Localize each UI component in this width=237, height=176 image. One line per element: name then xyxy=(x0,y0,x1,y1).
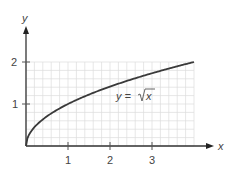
x-tick-label-1: 1 xyxy=(65,154,71,166)
chart-container: 1 2 3 1 2 x y y = x xyxy=(0,0,237,176)
y-tick-label-2: 2 xyxy=(11,56,17,68)
y-tick-label-1: 1 xyxy=(12,98,18,110)
axes xyxy=(22,26,214,150)
y-axis-arrow-icon xyxy=(23,26,29,34)
x-axis-arrow-icon xyxy=(206,143,214,149)
curve-label-prefix: y = xyxy=(115,90,132,102)
y-axis-label: y xyxy=(21,12,29,24)
grid xyxy=(26,62,194,146)
x-tick-label-2: 2 xyxy=(107,154,113,166)
curve-label-radicand: x xyxy=(145,90,152,102)
x-axis-label: x xyxy=(217,140,224,152)
x-tick-label-3: 3 xyxy=(149,154,155,166)
sqrt-chart: 1 2 3 1 2 x y y = x xyxy=(0,0,237,176)
